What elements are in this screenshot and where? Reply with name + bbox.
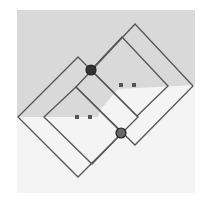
joint-lower xyxy=(116,128,126,138)
marker-left-1 xyxy=(75,115,79,119)
marker-left-2 xyxy=(88,115,92,119)
marker-right-2 xyxy=(132,83,136,87)
diagram-canvas xyxy=(0,0,208,201)
joint-upper xyxy=(86,65,96,75)
overlapping-rectangles-diagram xyxy=(0,0,208,201)
marker-right-1 xyxy=(119,83,123,87)
